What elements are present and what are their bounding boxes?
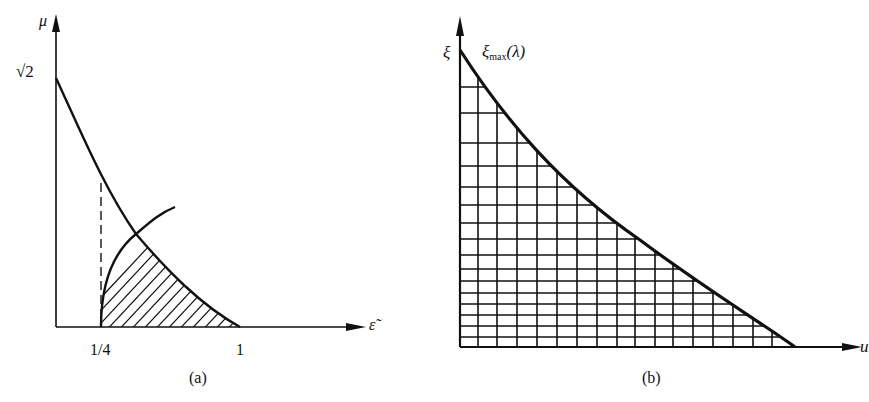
xi-max-curve xyxy=(460,50,795,347)
upper-curve xyxy=(56,78,240,327)
xi-axis-arrow-icon xyxy=(456,16,464,36)
mu-axis-label: μ xyxy=(39,12,47,30)
panel-a xyxy=(24,14,366,380)
u-axis-arrow-icon xyxy=(842,343,862,351)
u-axis-label: u xyxy=(860,337,869,357)
mu-axis-arrow-icon xyxy=(52,14,60,32)
hatched-region xyxy=(24,230,356,380)
xi-max-argument: (λ) xyxy=(507,42,526,61)
panel-b xyxy=(456,16,862,351)
epsilon-axis-label: ε̃ xyxy=(369,316,375,334)
epsilon-axis-arrow-icon xyxy=(346,323,366,331)
xi-max-subscript: max xyxy=(489,51,506,62)
xi-max-curve-label: ξmax(λ) xyxy=(482,42,525,62)
one-tick-label: 1 xyxy=(236,341,244,359)
quarter-tick-label: 1/4 xyxy=(90,341,110,359)
panel-b-caption: (b) xyxy=(642,369,661,387)
panel-a-caption: (a) xyxy=(189,369,207,387)
grid-region xyxy=(460,40,800,347)
sqrt2-tick-label: √2 xyxy=(16,62,34,82)
xi-axis-label: ξ xyxy=(443,43,450,63)
